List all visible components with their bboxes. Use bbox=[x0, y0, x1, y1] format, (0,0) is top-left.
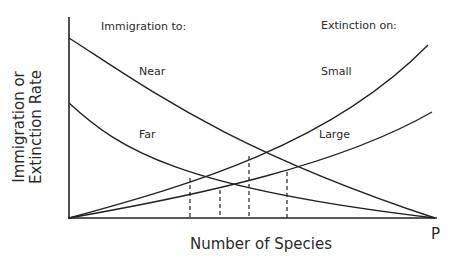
label-large: Large bbox=[319, 128, 350, 141]
label-near: Near bbox=[139, 65, 165, 78]
x-axis-end-label-p: P bbox=[431, 225, 440, 243]
x-axis-label: Number of Species bbox=[190, 235, 332, 253]
immigration-far-curve bbox=[69, 103, 435, 218]
island-biogeography-diagram bbox=[0, 0, 457, 266]
immigration-header: Immigration to: bbox=[101, 20, 186, 33]
y-axis-label-line1: Immigration or bbox=[11, 62, 28, 192]
label-far: Far bbox=[139, 128, 156, 141]
y-axis-label: Immigration or Extinction Rate bbox=[11, 62, 45, 192]
label-small: Small bbox=[321, 65, 352, 78]
immigration-near-curve bbox=[69, 38, 435, 218]
y-axis-label-line2: Extinction Rate bbox=[28, 62, 45, 192]
extinction-header: Extinction on: bbox=[321, 19, 397, 32]
